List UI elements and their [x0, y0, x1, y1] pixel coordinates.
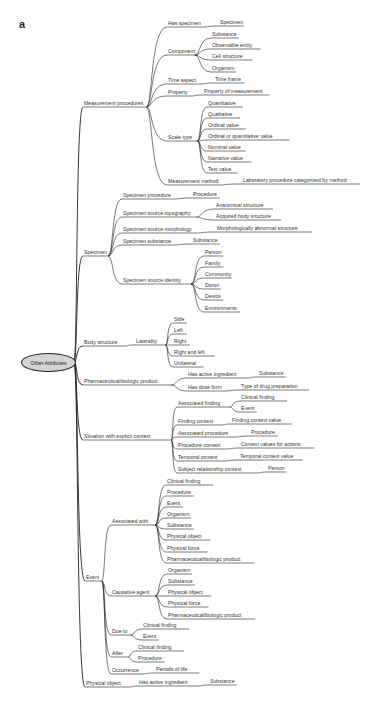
- node-l2[interactable]: Left: [174, 327, 183, 333]
- node-hdf[interactable]: Has dose form: [188, 384, 222, 390]
- node-ca5[interactable]: Pharmaceutical/biologic product: [168, 612, 242, 618]
- node-tc[interactable]: Temporal context: [178, 454, 218, 460]
- node-ev[interactable]: Event: [86, 574, 99, 580]
- node-mp[interactable]: Measurement procedures: [84, 100, 143, 106]
- node-comp[interactable]: Component: [168, 48, 195, 54]
- node-aw2[interactable]: Procedure: [167, 489, 191, 495]
- node-po[interactable]: Physical object: [86, 680, 121, 686]
- node-sp2[interactable]: Specimen source topography: [123, 210, 190, 216]
- node-dt1[interactable]: Clinical finding: [143, 622, 176, 628]
- node-ca1[interactable]: Organism: [168, 567, 191, 573]
- node-pc1[interactable]: Context values for actions: [241, 441, 301, 447]
- node-bs[interactable]: Body structure: [84, 339, 117, 345]
- root-node-other-attributes[interactable]: Other Attributes: [21, 353, 76, 372]
- node-c3[interactable]: Cell structure: [212, 53, 243, 59]
- node-sp2a[interactable]: Anatomical structure: [216, 202, 263, 208]
- node-sp5e[interactable]: Device: [205, 293, 221, 299]
- node-fc1[interactable]: Finding context value: [232, 417, 281, 423]
- node-c4[interactable]: Organism: [212, 65, 235, 71]
- node-aw[interactable]: Associated with: [112, 518, 148, 524]
- node-aw4[interactable]: Organism: [167, 511, 190, 517]
- node-mm[interactable]: Measurement method: [168, 178, 218, 184]
- node-ca[interactable]: Causative agent: [112, 589, 150, 595]
- node-ap[interactable]: Associated procedure: [178, 430, 228, 436]
- node-sp5f[interactable]: Environments: [205, 305, 237, 311]
- node-sp5d[interactable]: Donor: [205, 282, 219, 288]
- node-aft1[interactable]: Clinical finding: [138, 644, 171, 650]
- node-dt2[interactable]: Event: [143, 633, 156, 639]
- node-prop1[interactable]: Property of measurement: [204, 88, 263, 94]
- node-lat[interactable]: Laterality: [136, 338, 157, 344]
- node-sp1[interactable]: Specimen procedure: [123, 192, 171, 198]
- node-ta[interactable]: Time aspect: [168, 77, 196, 83]
- node-c1[interactable]: Substance: [212, 31, 237, 37]
- node-af[interactable]: Associated finding: [178, 400, 220, 406]
- node-hs1[interactable]: Specimen: [220, 19, 243, 25]
- node-st[interactable]: Scale type: [168, 134, 192, 140]
- node-aw7[interactable]: Physical force: [167, 545, 199, 551]
- node-mm1[interactable]: Laboratory procedure categorized by meth…: [243, 177, 347, 183]
- node-occ[interactable]: Occurrence: [112, 667, 139, 673]
- node-aw3[interactable]: Event: [167, 500, 180, 506]
- node-aw6[interactable]: Physical object: [167, 533, 202, 539]
- node-l4[interactable]: Right and left: [174, 349, 205, 355]
- node-af2[interactable]: Event: [241, 405, 254, 411]
- node-sp3[interactable]: Specimen source morphology: [123, 226, 192, 232]
- node-po1[interactable]: Has active ingredient: [139, 679, 187, 685]
- node-aft2[interactable]: Procedure: [138, 655, 162, 661]
- node-ca4[interactable]: Physical force: [168, 600, 200, 606]
- node-aw1[interactable]: Clinical finding: [167, 478, 200, 484]
- node-hai[interactable]: Has active ingredient: [188, 371, 236, 377]
- node-sp2b[interactable]: Acquired body structure: [216, 213, 271, 219]
- node-l3[interactable]: Right: [174, 338, 186, 344]
- node-ca2[interactable]: Substance: [168, 578, 193, 584]
- node-src1[interactable]: Person: [268, 465, 284, 471]
- node-af1[interactable]: Clinical finding: [241, 394, 274, 400]
- node-hs[interactable]: Has specimen: [168, 20, 201, 26]
- node-hai1[interactable]: Substance: [259, 370, 284, 376]
- node-s2[interactable]: Qualitative: [208, 111, 233, 117]
- node-s7[interactable]: Text value: [208, 166, 231, 172]
- node-sp3a[interactable]: Morphologically abnormal structure: [217, 225, 298, 231]
- node-src[interactable]: Subject relationship context: [178, 466, 241, 472]
- node-fc[interactable]: Finding context: [178, 418, 213, 424]
- node-ca3[interactable]: Physical object: [168, 589, 203, 595]
- node-sp5c[interactable]: Community: [205, 271, 231, 277]
- node-ta1[interactable]: Time frame: [215, 76, 241, 82]
- node-hdf1[interactable]: Type of drug preparation: [241, 383, 298, 389]
- node-sec[interactable]: Situation with explicit context: [84, 433, 150, 439]
- node-sp5[interactable]: Specimen source identity: [123, 277, 181, 283]
- node-l5[interactable]: Unilateral: [174, 360, 196, 366]
- node-sp4[interactable]: Specimen substance: [123, 238, 171, 244]
- node-pbp[interactable]: Pharmaceutical/biologic product: [84, 378, 158, 384]
- node-dt[interactable]: Due to: [112, 628, 127, 634]
- node-prop[interactable]: Property: [168, 89, 188, 95]
- node-sp4a[interactable]: Substance: [193, 237, 218, 243]
- node-aw8[interactable]: Pharmaceutical/biologic product: [167, 556, 241, 562]
- node-occ1[interactable]: Periods of life: [156, 666, 187, 672]
- node-s3[interactable]: Ordinal value: [208, 122, 239, 128]
- node-s4[interactable]: Ordinal or quantitative value: [208, 133, 273, 139]
- node-ap1[interactable]: Procedure: [251, 429, 275, 435]
- node-aw5[interactable]: Substance: [167, 522, 192, 528]
- node-aft[interactable]: After: [112, 650, 123, 656]
- node-s6[interactable]: Narrative value: [208, 155, 243, 161]
- node-s1[interactable]: Quantitative: [208, 100, 236, 106]
- node-c2[interactable]: Observable entity: [212, 42, 252, 48]
- node-sp5a[interactable]: Person: [205, 249, 221, 255]
- node-spec[interactable]: Specimen: [84, 249, 107, 255]
- node-tc1[interactable]: Temporal context value: [240, 453, 293, 459]
- node-l1[interactable]: Side: [174, 316, 184, 322]
- node-sp5b[interactable]: Family: [205, 260, 220, 266]
- node-sp1a[interactable]: Procedure: [193, 191, 217, 197]
- node-s5[interactable]: Nominal value: [208, 144, 241, 150]
- node-pc[interactable]: Procedure context: [178, 442, 220, 448]
- node-po2[interactable]: Substance: [210, 678, 235, 684]
